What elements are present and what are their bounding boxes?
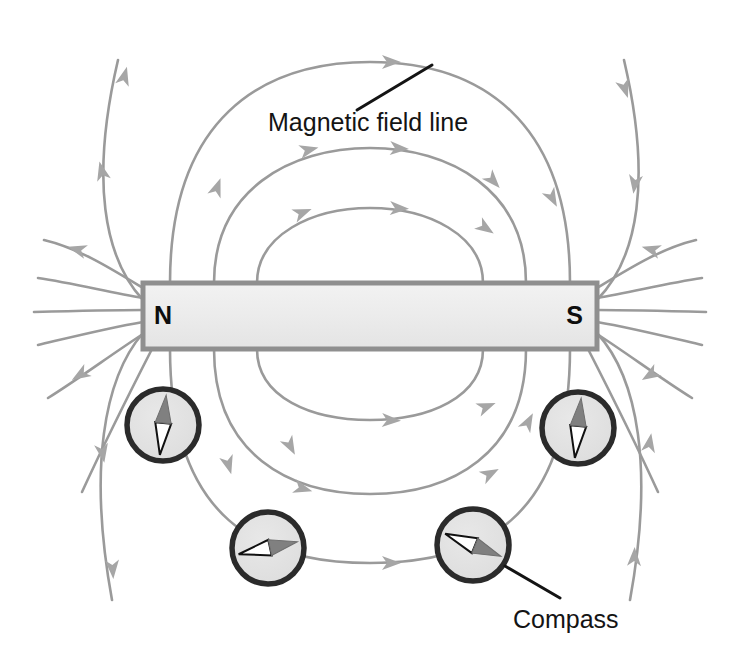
- field-line-ray-n-5: [48, 334, 143, 398]
- magnetic-field-line-label: Magnetic field line: [268, 108, 468, 136]
- arrowhead-icon: [479, 463, 502, 484]
- annotation-magnetic-field-line: Magnetic field line: [268, 65, 468, 136]
- arrowhead-icon: [626, 174, 643, 195]
- arrowhead-icon: [475, 396, 498, 416]
- compass-upper-left: [127, 389, 199, 461]
- field-line-loop-inner-top: [257, 208, 483, 283]
- field-line-loop-outer-bottom: [170, 349, 570, 563]
- annotation-compass: Compass: [505, 566, 619, 633]
- magnetic-field-diagram: N S: [0, 0, 741, 649]
- compass-lower-left: [232, 512, 304, 584]
- arrowhead-icon: [474, 217, 498, 239]
- field-line-loop-outer-top: [170, 62, 570, 283]
- arrowhead-icon: [518, 410, 539, 433]
- field-line-ray-s-5: [597, 334, 692, 398]
- magnet-north-pole-label: N: [154, 301, 172, 329]
- arrowhead-icon: [115, 65, 133, 87]
- compass-upper-right: [542, 392, 614, 464]
- field-line-far-left-bottom: [101, 333, 143, 600]
- arrowhead-icon: [641, 432, 658, 453]
- figure-canvas: N S: [0, 0, 741, 649]
- arrowhead-icon: [627, 547, 642, 566]
- bar-magnet: N S: [143, 283, 597, 349]
- magnetic-field-line-leader: [357, 65, 432, 110]
- arrowhead-icon: [207, 176, 227, 199]
- field-line-ray-s-3: [597, 310, 706, 312]
- field-line-loop-inner-bottom: [257, 349, 483, 420]
- field-line-ray-n-4: [38, 322, 143, 345]
- arrowhead-icon: [93, 160, 111, 182]
- compass-label: Compass: [513, 605, 619, 633]
- magnet-body: [143, 283, 597, 349]
- magnet-south-pole-label: S: [566, 301, 583, 329]
- field-line-ray-n-3: [34, 310, 143, 312]
- arrowhead-icon: [482, 169, 505, 192]
- arrowhead-icon: [638, 364, 662, 386]
- arrowhead-icon: [280, 435, 301, 458]
- compass-leader: [505, 566, 560, 598]
- field-line-ray-s-4: [597, 322, 702, 345]
- compass-lower-right: [437, 509, 509, 581]
- field-line-far-left-top: [103, 60, 143, 300]
- arrowhead-icon: [219, 454, 238, 476]
